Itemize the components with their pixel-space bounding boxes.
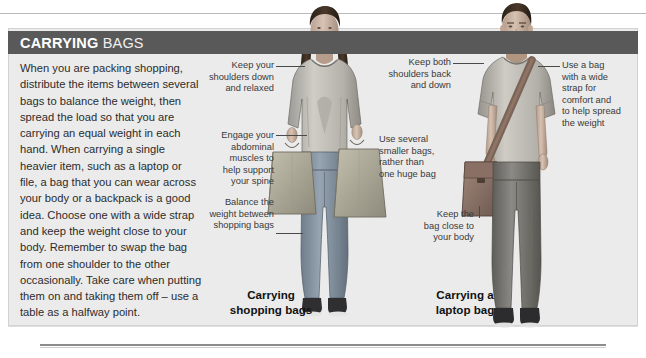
annotation-keep-bag-close: Keep thebag close toyour body [398,209,474,244]
page-bottom-rule [40,344,606,346]
panel-title-bar: CARRYING BAGS [8,31,638,54]
panel-title-bold: CARRYING [20,35,98,51]
caption-carrying-laptop-bag: Carrying alaptop bag [406,288,524,317]
page-root: CARRYING BAGS When you are packing shopp… [0,0,646,358]
annotation-keep-both-shoulders: Keep bothshoulders backand down [371,57,451,92]
annotation-use-wide-strap: Use a bagwith a widestrap forcomfort and… [562,60,638,130]
leader-engage-abdominal [276,135,307,136]
annotation-engage-abdominal: Engage yourabdominalmuscles tohelp suppo… [196,130,274,188]
leader-keep-bag-close [479,206,480,218]
panel-title-light: BAGS [98,35,143,51]
leader-shoulders-down [276,66,305,67]
annotation-shoulders-down: Keep yourshoulders downand relaxed [196,60,274,95]
panel-body-text: When you are packing shopping, distribut… [20,60,202,321]
caption-carrying-shopping-bags: Carryingshopping bags [208,288,334,317]
annotation-balance-weight: Balance theweight betweenshopping bags [186,197,274,232]
annotation-use-several-bags: Use severalsmaller bags,rather thanone h… [379,134,465,180]
leader-balance-weight [276,233,303,234]
panel-title: CARRYING BAGS [20,34,144,52]
page-bottom-rule-secondary [40,347,606,348]
leader-use-wide-strap [538,66,560,67]
leader-keep-both-shoulders [453,63,484,64]
